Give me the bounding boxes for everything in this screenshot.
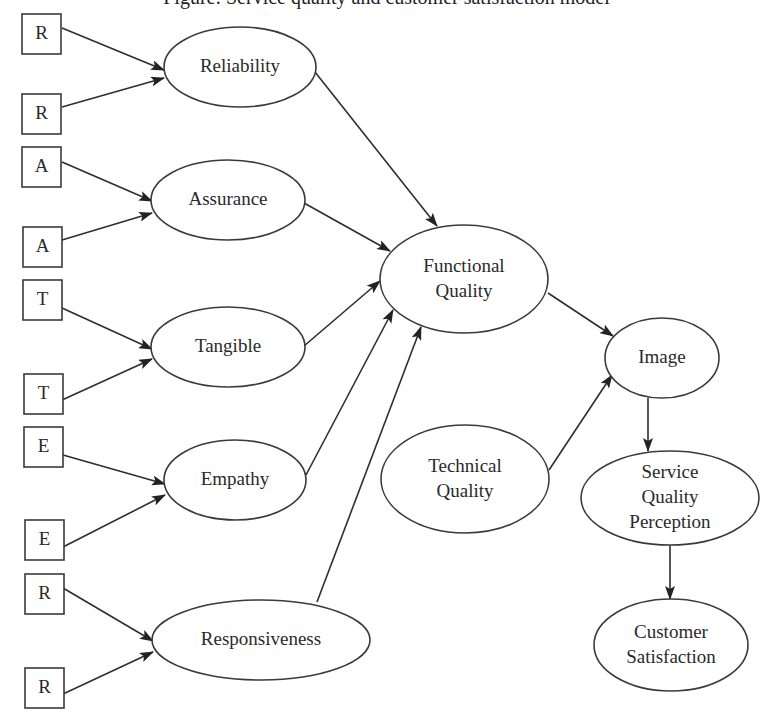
- arrow-a1-to-assurance: [62, 162, 152, 201]
- arrow-a2-to-assurance: [62, 213, 152, 240]
- indicator-label: A: [36, 235, 50, 256]
- construct-responsiveness: Responsiveness: [152, 600, 370, 680]
- construct-label: Tangible: [195, 335, 261, 356]
- arrow-reliability-to-functional_quality: [315, 72, 437, 226]
- arrow-assurance-to-functional_quality: [304, 203, 390, 251]
- construct-image: Image: [605, 318, 719, 398]
- construct-label: Functional: [423, 255, 504, 276]
- construct-empathy: Empathy: [164, 440, 306, 520]
- indicator-box-r4: R: [25, 668, 64, 708]
- construct-label: Quality: [437, 480, 494, 501]
- indicator-label: R: [38, 676, 51, 697]
- arrow-r1-to-reliability: [62, 28, 164, 70]
- arrow-functional_quality-to-image: [548, 293, 613, 336]
- indicator-box-r3: R: [25, 574, 64, 614]
- edges-layer: [62, 28, 670, 694]
- arrow-e1-to-empathy: [63, 455, 165, 484]
- construct-label: Service: [642, 461, 699, 482]
- indicator-box-e1: E: [24, 427, 63, 467]
- arrow-r3-to-responsiveness: [63, 588, 153, 641]
- construct-label: Assurance: [188, 188, 267, 209]
- construct-reliability: Reliability: [164, 27, 316, 107]
- construct-label: Image: [638, 346, 685, 367]
- arrow-empathy-to-functional_quality: [306, 310, 393, 475]
- construct-customer-satisfaction: CustomerSatisfaction: [594, 599, 748, 691]
- construct-ellipses: ReliabilityAssuranceTangibleEmpathyRespo…: [151, 27, 759, 691]
- construct-label: Reliability: [200, 55, 281, 76]
- arrow-technical_quality-to-image: [549, 375, 612, 470]
- indicator-label: E: [39, 528, 51, 549]
- arrow-t1-to-tangible: [62, 308, 152, 349]
- arrow-e2-to-empathy: [63, 495, 165, 547]
- indicator-box-t2: T: [24, 374, 63, 414]
- construct-label: Satisfaction: [626, 646, 716, 667]
- indicator-label: A: [35, 155, 49, 176]
- arrow-t2-to-tangible: [62, 359, 152, 400]
- construct-label: Perception: [629, 511, 711, 532]
- construct-tangible: Tangible: [151, 307, 305, 387]
- construct-assurance: Assurance: [151, 160, 305, 240]
- construct-label: Empathy: [201, 468, 270, 489]
- indicator-box-a2: A: [23, 227, 62, 267]
- indicator-label: R: [35, 22, 48, 43]
- construct-label: Quality: [436, 280, 493, 301]
- service-quality-diagram: RRAATTEERR ReliabilityAssuranceTangibleE…: [0, 0, 773, 721]
- construct-label: Technical: [428, 455, 502, 476]
- indicator-box-e2: E: [25, 520, 64, 560]
- indicator-label: R: [35, 102, 48, 123]
- indicator-box-r2: R: [22, 94, 61, 134]
- construct-label: Responsiveness: [201, 628, 321, 649]
- construct-technical-quality: TechnicalQuality: [381, 425, 549, 533]
- indicator-box-r1: R: [22, 14, 61, 54]
- indicator-boxes: RRAATTEERR: [22, 14, 64, 708]
- construct-functional-quality: FunctionalQuality: [380, 225, 548, 333]
- indicator-box-t1: T: [23, 280, 62, 320]
- construct-service-quality-perception: ServiceQualityPerception: [581, 451, 759, 545]
- indicator-label: E: [38, 435, 50, 456]
- arrow-tangible-to-functional_quality: [304, 281, 380, 346]
- indicator-label: T: [37, 288, 49, 309]
- construct-label: Quality: [642, 486, 699, 507]
- indicator-label: R: [38, 582, 51, 603]
- indicator-box-a1: A: [22, 147, 61, 187]
- construct-label: Customer: [634, 621, 709, 642]
- arrow-r4-to-responsiveness: [63, 652, 153, 694]
- arrow-r2-to-reliability: [62, 78, 164, 107]
- indicator-label: T: [38, 382, 50, 403]
